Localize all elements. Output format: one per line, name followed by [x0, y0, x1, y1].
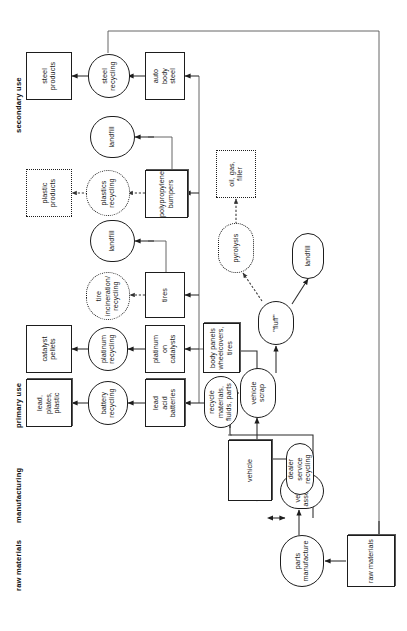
stage-header-secondary-use: secondary use [14, 77, 23, 133]
node-vehicle[interactable]: vehicle [228, 440, 272, 501]
node-polypropylene-bumpers[interactable]: polypropylene bumpers [145, 170, 188, 218]
node-fluff[interactable]: "fluff" [258, 301, 294, 345]
diagram-canvas: raw materials manufacturing primary use … [0, 0, 407, 631]
node-body-panels[interactable]: body panels wheelcovers, tires [203, 323, 240, 373]
node-battery-recycling[interactable]: battery recycling [88, 381, 128, 425]
stage-header-primary-use: primary use [14, 383, 23, 428]
stage-header-raw-materials: raw materials [14, 540, 23, 591]
node-steel-recycling[interactable]: steel recycling [88, 54, 130, 98]
node-vehicle-scrap[interactable]: vehicle scrap [240, 368, 276, 418]
node-landfill-tires[interactable]: landfill [90, 220, 135, 262]
node-catalyst-pellets[interactable]: catalyst pellets [26, 325, 72, 373]
node-lead-plates-plastic[interactable]: lead, plates, plastic [26, 379, 72, 427]
diagram-frame: raw materials manufacturing primary use … [0, 0, 407, 631]
node-oil-gas-filler[interactable]: oil, gas, filler [216, 150, 256, 198]
node-landfill-plastics[interactable]: landfill [90, 116, 135, 158]
node-tire-incineration-recycling[interactable]: tire incineration/ recycling [86, 272, 130, 320]
node-auto-body-steel[interactable]: auto body steel [145, 52, 185, 100]
node-pyrolysis[interactable]: pyrolysis [218, 223, 254, 273]
node-tires[interactable]: tires [145, 272, 185, 318]
node-steel-products[interactable]: steel products [26, 52, 72, 100]
node-lead-acid-batteries[interactable]: lead acid batteries [145, 379, 185, 427]
node-parts-manufacture[interactable]: parts manufacture [280, 535, 324, 587]
node-plastics-recycling[interactable]: plastics recycling [86, 170, 130, 216]
node-landfill-fluff[interactable]: landfill [292, 233, 324, 279]
node-platinum-on-catalysts[interactable]: platinum on catalysts [145, 325, 185, 373]
node-plastic-products[interactable]: plastic products [26, 169, 72, 217]
node-dealer-service-recycling[interactable]: dealer service recycling [286, 443, 314, 495]
node-raw-materials[interactable]: raw materials [347, 535, 395, 587]
node-recycle-materials[interactable]: recycle materials, fluids, parts [204, 376, 238, 428]
node-platinum-recycling[interactable]: platinum recycling [88, 327, 128, 371]
stage-header-manufacturing: manufacturing [14, 468, 23, 523]
